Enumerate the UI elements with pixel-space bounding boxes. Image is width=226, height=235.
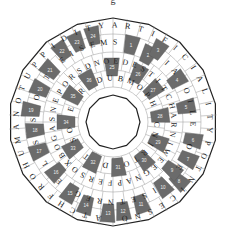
cell-number: 13: [105, 211, 111, 216]
cell-number: 15: [67, 191, 73, 196]
letter-cell[interactable]: E: [188, 122, 197, 127]
letter-cell[interactable]: A: [169, 112, 179, 119]
cell-number: 33: [70, 146, 76, 151]
cell-number: 20: [37, 87, 43, 92]
letter-cell[interactable]: A: [48, 125, 58, 132]
letter-cell[interactable]: N: [108, 197, 114, 206]
letter-cell[interactable]: S: [28, 118, 37, 123]
cell-number: 11: [139, 202, 144, 207]
letter-cell[interactable]: M: [100, 38, 108, 48]
cell-number: 10: [160, 185, 166, 190]
letter-cell[interactable]: S: [48, 117, 57, 122]
letter-cell[interactable]: U: [107, 73, 114, 82]
cell-number: 31: [115, 165, 121, 170]
cell-number: 34: [63, 120, 69, 125]
letter-cell[interactable]: T: [205, 114, 214, 119]
cell-number: 12: [120, 209, 126, 214]
cell-number: 16: [53, 170, 59, 175]
cell-number: 24: [90, 34, 96, 39]
letter-cell[interactable]: C: [152, 121, 161, 127]
circular-word-grid[interactable]: 1234567891011121314151617181920212223242…: [0, 0, 226, 235]
cell-number: 22: [59, 49, 65, 54]
letter-cell[interactable]: N: [12, 110, 21, 117]
cell-number: 21: [47, 68, 53, 73]
cell-number: 35: [70, 94, 76, 99]
letter-cell[interactable]: O: [103, 57, 110, 67]
cell-number: 19: [28, 108, 34, 113]
cell-number: 32: [90, 160, 96, 165]
letter-cell[interactable]: Y: [205, 127, 214, 134]
cell-number: 17: [36, 149, 42, 154]
cell-number: 36: [86, 78, 92, 83]
cell-number: 18: [32, 128, 38, 133]
letter-cell[interactable]: E: [113, 56, 118, 65]
cell-number: 28: [157, 114, 163, 119]
letter-cell[interactable]: A: [112, 20, 118, 29]
puzzle-board: g 12345678910111213141516171819202122232…: [0, 0, 226, 235]
letter-cell[interactable]: A: [11, 124, 20, 130]
cell-number: 29: [155, 140, 161, 145]
letter-cell[interactable]: S: [113, 37, 118, 46]
